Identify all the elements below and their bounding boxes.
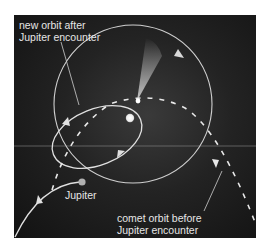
new-orbit-label-line1: new orbit after	[19, 19, 100, 31]
new-orbit-ellipse	[43, 93, 151, 180]
comet-head	[136, 99, 141, 104]
old-orbit-dashed	[52, 98, 258, 230]
arrow-icon	[212, 159, 219, 168]
comet-tail	[137, 38, 162, 101]
jupiter-planet	[78, 178, 85, 185]
arrow-icon	[174, 49, 184, 58]
new-orbit-label-line2: Jupiter encounter	[19, 31, 100, 43]
leader-line-old-orbit	[204, 171, 222, 211]
jupiter-label: Jupiter	[65, 189, 97, 201]
new-orbit-label: new orbit after Jupiter encounter	[19, 19, 100, 43]
old-orbit-label: comet orbit before Jupiter encounter	[117, 212, 202, 236]
old-orbit-label-line2: Jupiter encounter	[117, 224, 202, 236]
sun	[126, 114, 134, 122]
old-orbit-label-line1: comet orbit before	[117, 212, 202, 224]
leader-line-new-orbit	[61, 42, 79, 105]
arrow-icon	[62, 117, 70, 126]
jupiter-orbit-circle	[54, 25, 212, 183]
